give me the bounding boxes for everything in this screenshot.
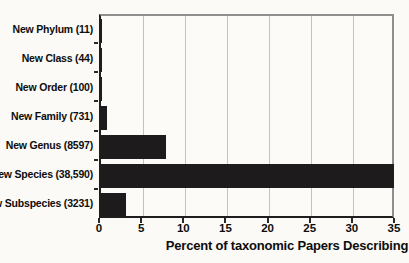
y-axis-label: New Order (100) <box>0 72 93 101</box>
plot-area <box>99 14 394 218</box>
x-tick-label: 15 <box>212 222 238 234</box>
x-tick-label: 0 <box>86 222 112 234</box>
y-axis-label: New Family (731) <box>0 101 93 130</box>
bar <box>101 48 102 72</box>
y-tick-mark <box>94 188 98 190</box>
y-tick-mark <box>94 71 98 73</box>
bar <box>101 135 166 159</box>
y-tick-mark <box>94 100 98 102</box>
x-tick-label: 20 <box>255 222 281 234</box>
y-axis-label: New Phylum (11) <box>0 14 93 43</box>
y-tick-mark <box>94 130 98 132</box>
y-axis-label: New Species (38,590) <box>0 160 93 189</box>
y-tick-mark <box>94 42 98 44</box>
x-tick-label: 35 <box>381 222 407 234</box>
bar <box>101 106 107 130</box>
bar-chart: Percent of taxonomic Papers Describing 0… <box>0 0 409 263</box>
x-tick-label: 30 <box>339 222 365 234</box>
y-axis-label: New Subspecies (3231) <box>0 189 93 218</box>
bar <box>101 164 394 188</box>
y-axis-label: New Class (44) <box>0 43 93 72</box>
bar <box>101 193 126 217</box>
x-tick-label: 10 <box>170 222 196 234</box>
x-tick-label: 5 <box>128 222 154 234</box>
y-tick-mark <box>94 159 98 161</box>
bar <box>101 77 102 101</box>
bar <box>101 19 102 43</box>
x-axis-title: Percent of taxonomic Papers Describing <box>166 238 408 253</box>
y-axis-label: New Genus (8597) <box>0 131 93 160</box>
x-tick-label: 25 <box>297 222 323 234</box>
